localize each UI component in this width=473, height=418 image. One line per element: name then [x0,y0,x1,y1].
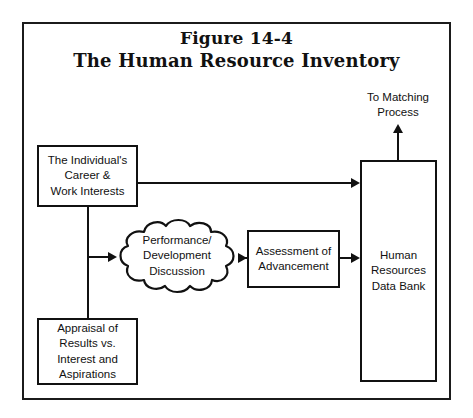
node-performance-development-discussion: Performance/ Development Discussion [116,218,238,294]
connector-individual-to-databank [138,182,352,184]
connector-trunk-to-discussion [87,256,109,258]
figure-canvas: Figure 14-4 The Human Resource Inventory… [0,0,473,418]
output-label-to-matching-process: To Matching Process [348,90,448,120]
node-discussion-label: Performance/ Development Discussion [116,218,238,294]
arrowhead-assessment-to-databank-icon [351,253,360,263]
node-human-resources-data-bank: Human Resources Data Bank [360,160,437,382]
arrowhead-individual-to-databank-icon [351,178,360,188]
connector-databank-to-output [397,132,399,160]
node-assessment-of-advancement: Assessment of Advancement [247,230,340,288]
arrowhead-discussion-to-assessment-icon [238,253,247,263]
node-individual-career-interests: The Individual's Career & Work Interests [37,145,138,207]
figure-main-title: The Human Resource Inventory [0,50,473,71]
connector-individual-to-appraisal-trunk [87,205,89,320]
arrowhead-databank-to-output-icon [393,124,403,133]
node-appraisal-of-results: Appraisal of Results vs. Interest and As… [37,318,138,385]
figure-number-title: Figure 14-4 [0,28,473,48]
